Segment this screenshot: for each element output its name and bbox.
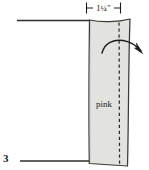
fold-arrow-head	[135, 43, 143, 54]
figure-number: 3	[3, 152, 9, 164]
sewing-pattern-figure: 1¼" pink 3	[0, 0, 149, 170]
figure-illustration: 1¼" pink 3	[0, 0, 149, 170]
fabric-piece-label: pink	[96, 99, 113, 109]
dimension-label: 1¼"	[96, 3, 111, 13]
